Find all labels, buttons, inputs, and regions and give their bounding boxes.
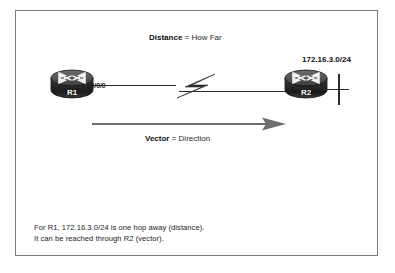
distance-definition: = How Far [182, 33, 221, 42]
subnet-label-172-16-3-0-24: 172.16.3.0/24 [302, 55, 351, 64]
serial-link-right-segment [179, 91, 287, 92]
caption-line-2: It can be reached through R2 (vector). [34, 234, 204, 243]
caption-block: For R1, 172.16.3.0/24 is one hop away (d… [34, 223, 204, 243]
router-r2[interactable]: R2 [284, 69, 328, 99]
vector-arrow-icon [90, 115, 290, 133]
distance-term: Distance [149, 33, 182, 42]
serial-link-lightning-icon [168, 73, 220, 99]
router-r1-label: R1 [50, 88, 94, 97]
vector-definition-label: Vector = Direction [145, 134, 210, 143]
vector-definition: = Direction [169, 134, 210, 143]
distance-definition-label: Distance = How Far [149, 33, 222, 42]
lan-segment-bar [338, 74, 340, 105]
diagram-frame: Distance = How Far [15, 10, 378, 256]
caption-line-1: For R1, 172.16.3.0/24 is one hop away (d… [34, 223, 204, 232]
lan-link-segment [321, 89, 349, 90]
vector-term: Vector [145, 134, 169, 143]
interface-label-s000: S0/0/0 [86, 82, 106, 89]
